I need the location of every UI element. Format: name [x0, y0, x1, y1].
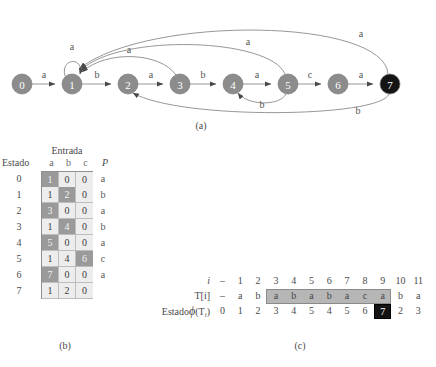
edge-label-6-7: a	[359, 69, 364, 80]
table-cell: 0	[76, 203, 93, 219]
trace-cell-i: 10	[392, 274, 409, 288]
table-group-header: Entrada	[41, 145, 93, 156]
trace-cell-t: b	[392, 289, 409, 303]
trace-cell-state: 2	[250, 304, 267, 318]
table-row: 5 1 4 6 c	[0, 251, 115, 267]
table-row-p: a	[96, 267, 110, 283]
trace-cell-state: 5	[303, 304, 320, 318]
trace-cell-state: 3	[267, 304, 284, 318]
table-cell: 1	[42, 283, 59, 299]
node-2-label: 2	[125, 79, 131, 91]
table-row-cells: 7 0 0	[41, 267, 93, 283]
trace-cell-t: b	[250, 289, 267, 303]
table-row-state: 3	[0, 219, 38, 235]
node-2[interactable]: 2	[118, 74, 138, 94]
node-3-label: 3	[177, 79, 183, 91]
table-row-p: a	[96, 203, 110, 219]
table-cell: 1	[42, 251, 59, 267]
node-5[interactable]: 5	[278, 74, 298, 94]
table-cell: 0	[59, 203, 76, 219]
trace-cell-state: 4	[285, 304, 302, 318]
trace-cell-i: –	[214, 274, 231, 288]
automaton-graph: a a b a b a	[0, 0, 436, 135]
edge-4-5: a	[243, 69, 271, 84]
trace-state-arg-open: (T	[195, 306, 204, 317]
trace-cell-i: 2	[250, 274, 267, 288]
node-4-label: 4	[230, 79, 236, 91]
table-row-state: 0	[0, 171, 38, 187]
table-row-p: a	[96, 235, 110, 251]
table-row-state: 4	[0, 235, 38, 251]
table-column-header-row: Estado a b c P	[2, 157, 114, 169]
table-cell: 7	[42, 267, 59, 283]
trace-cell-t: a	[410, 289, 427, 303]
trace-cell-i: 7	[339, 274, 356, 288]
edge-5-4-arc: b	[238, 93, 286, 110]
node-3[interactable]: 3	[170, 74, 190, 94]
table-p-header: P	[98, 157, 112, 168]
table-input-header-b: b	[60, 157, 77, 168]
node-0[interactable]: 0	[12, 74, 32, 94]
trace-cell-state: 1	[232, 304, 249, 318]
edge-label-3-4: b	[201, 69, 206, 80]
edge-label-2-3: a	[149, 69, 154, 80]
edge-label-4-5: a	[255, 69, 260, 80]
table-row: 3 1 4 0 b	[0, 219, 115, 235]
edge-5-6: c	[298, 69, 321, 84]
trace-cell-state: 7	[374, 304, 391, 319]
edge-3-4: b	[190, 69, 216, 84]
edge-2-3: a	[138, 69, 163, 84]
trace-cell-i: 4	[285, 274, 302, 288]
edge-label-5-1: a	[246, 36, 251, 47]
node-7-label: 7	[387, 79, 393, 91]
trace-cell-state: 0	[214, 304, 231, 318]
table-cell: 6	[76, 251, 93, 267]
trace-cell-i: 1	[232, 274, 249, 288]
table-row-state: 5	[0, 251, 38, 267]
trace-cell-i: 3	[267, 274, 284, 288]
table-cell: 1	[42, 172, 59, 188]
table-cell: 4	[59, 251, 76, 267]
trace-cell-t: a	[232, 289, 249, 303]
table-row-state: 6	[0, 267, 38, 283]
trace-cell-i: 11	[410, 274, 427, 288]
trace-cell-t: c	[356, 289, 373, 303]
trace-panel: i T[i] Estadoϕ(Ti) –1234567891011–ababab…	[136, 274, 436, 334]
table-cell: 2	[59, 283, 76, 299]
table-cell: 4	[59, 219, 76, 235]
trace-cell-state: 6	[356, 304, 373, 318]
table-row-state: 2	[0, 203, 38, 219]
node-7-accepting[interactable]: 7	[380, 74, 400, 94]
trace-cell-state: 4	[321, 304, 338, 318]
table-cell: 0	[76, 235, 93, 251]
edge-1-1-self-loop: a	[64, 41, 80, 76]
table-cell: 1	[42, 219, 59, 235]
node-1[interactable]: 1	[62, 74, 82, 94]
edge-6-7: a	[348, 69, 373, 84]
table-cell: 3	[42, 203, 59, 219]
trace-state-arg-close: )	[207, 306, 210, 317]
trace-cell-t: b	[285, 289, 302, 303]
table-row-cells: 1 4 6	[41, 251, 93, 267]
table-cell: 5	[42, 235, 59, 251]
edge-label-7-1: a	[359, 28, 364, 39]
node-5-label: 5	[285, 79, 291, 91]
trace-cell-t: a	[303, 289, 320, 303]
trace-cell-t: a	[339, 289, 356, 303]
table-row-p: c	[96, 251, 110, 267]
edge-label-5-6: c	[308, 69, 313, 80]
trace-cell-i: 8	[356, 274, 373, 288]
edge-label-5-4: b	[260, 99, 265, 110]
table-cell: 0	[76, 267, 93, 283]
node-4[interactable]: 4	[223, 74, 243, 94]
table-row: 4 5 0 0 a	[0, 235, 115, 251]
table-row: 7 1 2 0	[0, 283, 115, 299]
trace-cell-state: 5	[339, 304, 356, 318]
trace-cell-i: 6	[321, 274, 338, 288]
node-6[interactable]: 6	[328, 74, 348, 94]
caption-c: (c)	[285, 340, 315, 351]
table-input-header-a: a	[43, 157, 60, 168]
table-row-p: b	[96, 187, 110, 203]
edge-label-1-2: b	[95, 69, 100, 80]
table-row: 6 7 0 0 a	[0, 267, 115, 283]
